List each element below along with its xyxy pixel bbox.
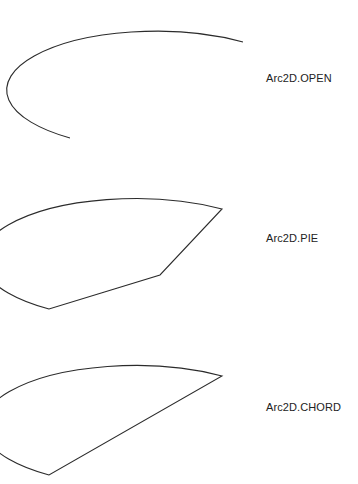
shape-area-open xyxy=(0,0,258,170)
label-arc2d-pie: Arc2D.PIE xyxy=(266,232,358,245)
arc-open-svg xyxy=(0,0,258,170)
arc-pie-svg xyxy=(0,170,258,332)
label-arc2d-open: Arc2D.OPEN xyxy=(266,72,358,85)
arc-chord-path xyxy=(0,365,222,475)
shape-area-chord xyxy=(0,332,258,484)
figure-pie: Arc2D.PIE xyxy=(0,170,358,332)
shape-area-pie xyxy=(0,170,258,332)
diagram-canvas: Arc2D.OPEN Arc2D.PIE Arc2D.CHORD xyxy=(0,0,358,484)
arc-open-path xyxy=(7,31,243,138)
figure-open: Arc2D.OPEN xyxy=(0,0,358,170)
figure-chord: Arc2D.CHORD xyxy=(0,332,358,484)
label-arc2d-chord: Arc2D.CHORD xyxy=(266,401,358,414)
arc-pie-path xyxy=(0,199,222,309)
arc-chord-svg xyxy=(0,332,258,484)
